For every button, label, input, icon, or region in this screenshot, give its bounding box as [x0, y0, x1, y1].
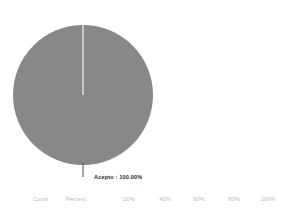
legend-column-count: Count — [33, 194, 48, 204]
pie-chart-figure: Acepto : 100.00% Count Percent 20% 40% 6… — [0, 0, 281, 213]
pie-svg — [0, 0, 281, 190]
axis-tick-20: 20% — [123, 194, 135, 204]
axis-tick-40: 40% — [159, 194, 171, 204]
axis-tick-80: 80% — [228, 194, 240, 204]
axis-tick-60: 60% — [193, 194, 205, 204]
slice-data-label: Acepto : 100.00% — [94, 173, 142, 181]
pie-plot-area: Acepto : 100.00% — [0, 0, 281, 190]
chart-axis-row: Count Percent 20% 40% 60% 80% 100% — [0, 194, 281, 210]
legend-column-percent: Percent — [66, 194, 86, 204]
axis-tick-100: 100% — [261, 194, 276, 204]
